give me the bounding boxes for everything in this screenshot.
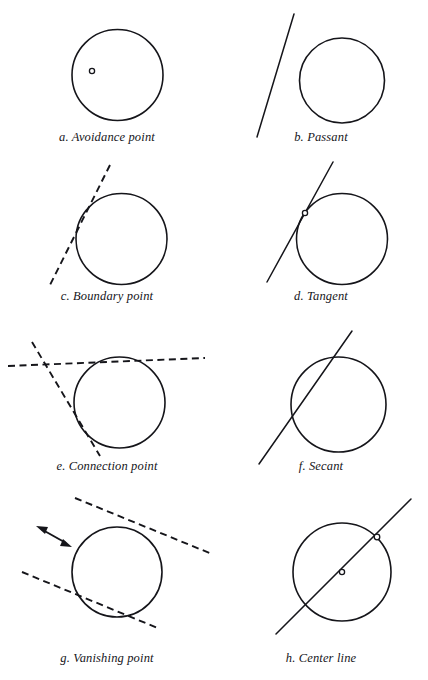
panel-g-drawing <box>0 484 214 644</box>
panel-h-caption: h. Center line <box>214 651 428 666</box>
secant-line <box>259 331 352 464</box>
avoidance-point-marker <box>89 68 94 73</box>
circle-outline <box>72 527 162 617</box>
panel-b-caption: b. Passant <box>214 130 428 145</box>
panel-e-caption: e. Connection point <box>0 459 214 474</box>
panel-a-caption: a. Avoidance point <box>0 130 214 145</box>
circle-center-marker <box>339 569 344 574</box>
panel-d-drawing <box>214 160 428 295</box>
direction-arrow-icon <box>36 526 72 547</box>
figure-sheet: a. Avoidance point b. Passant c. Boundar… <box>0 0 428 680</box>
panel-a-drawing <box>0 0 214 128</box>
circle-outline <box>297 194 388 285</box>
lower-tangent-line <box>22 572 160 629</box>
circle-outline <box>300 38 385 123</box>
tangent-point-marker <box>302 210 307 215</box>
tangent-line <box>267 162 333 282</box>
panel-b-drawing <box>214 0 428 128</box>
panel-e-drawing <box>0 325 214 465</box>
panel-d-caption: d. Tangent <box>214 289 428 304</box>
panel-f-caption: f. Secant <box>214 459 428 474</box>
panel-f-drawing <box>214 325 428 465</box>
panel-c-caption: c. Boundary point <box>0 289 214 304</box>
oblique-tangent-line <box>32 342 100 456</box>
circle-outline <box>72 30 163 121</box>
intersection-point-marker <box>374 534 380 540</box>
panel-g-caption: g. Vanishing point <box>0 651 214 666</box>
boundary-tangent-line <box>49 165 110 287</box>
panel-h-drawing <box>214 484 428 644</box>
circle-outline <box>291 357 386 452</box>
passant-line <box>257 14 294 137</box>
panel-c-drawing <box>0 160 214 295</box>
upper-tangent-line <box>75 498 212 554</box>
